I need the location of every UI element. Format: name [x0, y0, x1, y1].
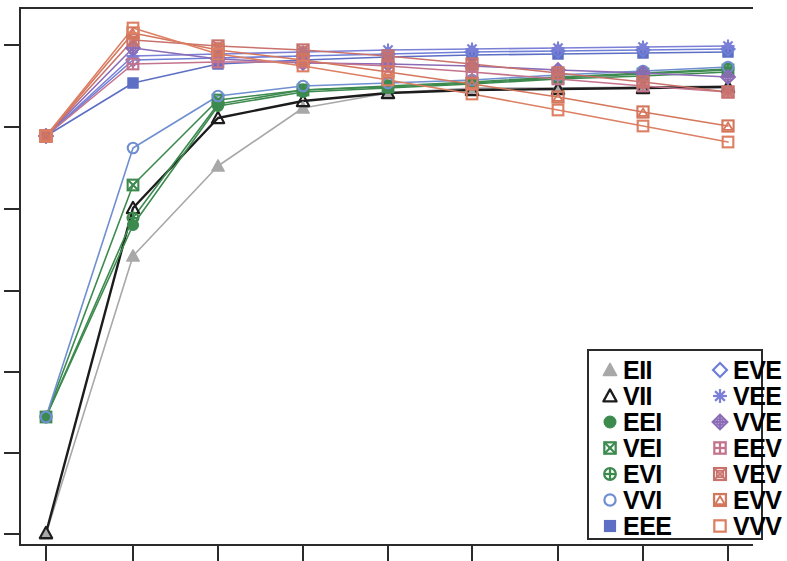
marker-vee-6 [465, 42, 478, 55]
legend-symbol-vee-icon [707, 383, 733, 409]
legend-label-eei: EEI [623, 409, 707, 435]
legend-label-vvv: VVV [733, 513, 787, 539]
legend-symbol-vii-icon [597, 383, 623, 409]
legend-label-eev: EEV [733, 435, 787, 461]
legend-symbol-eii-icon [597, 357, 623, 383]
legend-grid: EIIEVEVIIVEEEEIVVEVEIEEVEVIVEVVVIEVVEEEV… [597, 357, 757, 539]
y-axis-ticks [4, 45, 20, 534]
legend-symbol-eev-icon [707, 435, 733, 461]
legend-symbol-vvv-icon [707, 513, 733, 539]
marker-eii-3 [212, 160, 224, 171]
legend-label-eii: EII [623, 357, 707, 383]
legend-label-eve: EVE [733, 357, 787, 383]
marker-evi-2 [128, 213, 139, 224]
legend-symbol-evi-icon [597, 461, 623, 487]
legend-symbol-vev-icon [707, 461, 733, 487]
legend-label-vev: VEV [733, 461, 787, 487]
marker-eee-2 [128, 78, 138, 88]
legend-label-vve: VVE [733, 409, 787, 435]
marker-vee-8 [636, 40, 649, 53]
legend-label-vee: VEE [733, 383, 787, 409]
legend-symbol-evv-icon [707, 487, 733, 513]
legend-label-vvi: VVI [623, 487, 707, 513]
legend-label-eee: EEE [623, 513, 707, 539]
legend-symbol-eve-icon [707, 357, 733, 383]
x-axis-ticks [46, 545, 728, 561]
legend-symbol-eee-icon [597, 513, 623, 539]
legend-symbol-eei-icon [597, 409, 623, 435]
legend-symbol-vvi-icon [597, 487, 623, 513]
marker-vei-2 [128, 180, 139, 191]
marker-vee-9 [721, 39, 734, 52]
legend-label-vii: VII [623, 383, 707, 409]
marker-vee-7 [551, 41, 564, 54]
legend-symbol-vei-icon [597, 435, 623, 461]
legend-label-evv: EVV [733, 487, 787, 513]
chart-legend: EIIEVEVIIVEEEEIVVEVEIEEVEVIVEVVVIEVVEEEV… [587, 349, 763, 540]
legend-label-vei: VEI [623, 435, 707, 461]
legend-symbol-vve-icon [707, 409, 733, 435]
legend-label-evi: EVI [623, 461, 707, 487]
